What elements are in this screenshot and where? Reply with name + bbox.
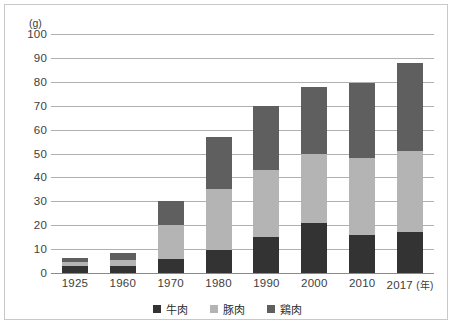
y-axis-tick-label: 60 [13,124,47,136]
y-axis-tick-label: 30 [13,195,47,207]
x-axis-tick-labels: 19251960197019801990200020102017 (年) [51,277,434,295]
y-axis-tick-labels: 0102030405060708090100 [5,34,47,273]
gridline [51,34,434,35]
legend-swatch-icon [267,305,275,313]
plot-area [51,34,434,273]
legend-item[interactable]: 牛肉 [153,301,188,317]
y-axis-tick-label: 100 [13,28,47,40]
gridline [51,273,434,274]
y-axis-tick-label: 40 [13,171,47,183]
bar-group[interactable] [158,201,184,273]
bar-segment[interactable] [206,250,232,273]
x-axis-tick-label: 1970 [157,277,183,289]
legend-label: 豚肉 [223,301,245,317]
gridline [51,225,434,226]
bar-segment[interactable] [301,223,327,273]
chart-frame: (g) 0102030405060708090100 1925196019701… [4,4,448,320]
bar-group[interactable] [253,106,279,273]
bar-segment[interactable] [206,137,232,190]
bar-segment[interactable] [349,235,375,273]
bar-segment[interactable] [397,232,423,273]
legend-swatch-icon [210,305,218,313]
y-axis-tick-label: 0 [13,267,47,279]
bar-segment[interactable] [349,158,375,234]
legend-swatch-icon [153,305,161,313]
legend-item[interactable]: 鶏肉 [267,301,302,317]
bar-segment[interactable] [253,237,279,273]
y-axis-tick-label: 80 [13,76,47,88]
bar-segment[interactable] [206,189,232,250]
y-axis-tick-label: 90 [13,52,47,64]
gridline [51,58,434,59]
bar-segment[interactable] [397,63,423,151]
bar-group[interactable] [62,258,88,274]
x-axis-tick-label: 2000 [301,277,327,289]
x-axis-tick-label: 2010 [349,277,375,289]
bar-segment[interactable] [301,154,327,223]
legend-label: 牛肉 [166,301,188,317]
gridline [51,106,434,107]
y-axis-tick-label: 70 [13,100,47,112]
x-axis-unit-label: (年) [416,280,433,291]
x-axis-tick-label: 1925 [62,277,88,289]
bar-group[interactable] [206,137,232,273]
bar-segment[interactable] [110,253,136,260]
bar-group[interactable] [301,87,327,273]
gridline [51,249,434,250]
legend-label: 鶏肉 [280,301,302,317]
bar-segment[interactable] [62,266,88,273]
bar-group[interactable] [110,253,136,273]
x-axis-tick-label: 2017 (年) [387,277,434,292]
gridline [51,154,434,155]
gridline [51,82,434,83]
y-axis-tick-label: 50 [13,148,47,160]
bar-group[interactable] [349,83,375,273]
bar-segment[interactable] [301,87,327,154]
chart-legend: 牛肉豚肉鶏肉 [5,301,449,317]
bar-segment[interactable] [158,259,184,273]
gridline [51,130,434,131]
bar-group[interactable] [397,63,423,273]
x-axis-tick-label: 1960 [110,277,136,289]
bar-segment[interactable] [253,106,279,171]
bar-segment[interactable] [253,170,279,237]
x-axis-tick-label: 1990 [253,277,279,289]
y-axis-tick-label: 20 [13,219,47,231]
bar-segment[interactable] [397,151,423,232]
x-axis-tick-label: 1980 [205,277,231,289]
y-axis-tick-label: 10 [13,243,47,255]
bar-segment[interactable] [349,83,375,158]
legend-item[interactable]: 豚肉 [210,301,245,317]
bar-segment[interactable] [110,266,136,273]
gridline [51,177,434,178]
gridline [51,201,434,202]
bar-segment[interactable] [158,225,184,258]
bar-segment[interactable] [158,201,184,225]
